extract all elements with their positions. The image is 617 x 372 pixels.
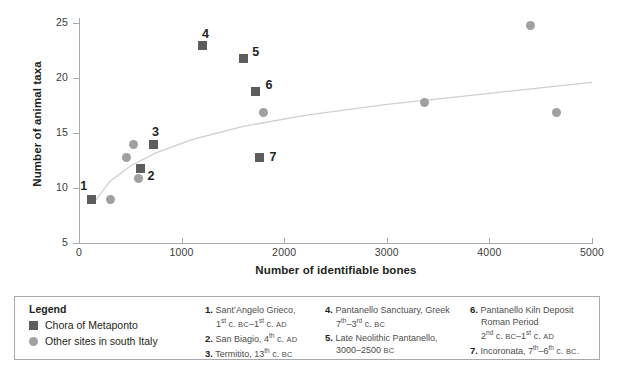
legend-note: 3. Termitito, 13th c. BC: [205, 347, 317, 361]
legend-note: 7. Incoronata, 7th–6th c. BC.: [470, 344, 610, 358]
legend-entry-chora: Chora of Metaponto: [29, 319, 204, 331]
data-point-label: 2: [148, 169, 155, 183]
data-point-label: 6: [265, 78, 272, 92]
x-tick-mark: [592, 238, 593, 244]
x-tick-label: 1000: [152, 246, 212, 258]
square-marker-icon: [29, 321, 38, 330]
x-tick-mark: [284, 238, 285, 244]
legend-note: 2. San Biagio, 4th c. AD: [205, 332, 317, 346]
legend-note: 5. Late Neolithic Pantanello,3000–2500 B…: [325, 332, 465, 357]
data-point-label: 5: [252, 45, 259, 59]
data-point-circle: [526, 21, 535, 30]
x-tick-label: 4000: [459, 246, 519, 258]
data-point-square: [136, 164, 145, 173]
data-point-label: 3: [152, 125, 159, 139]
legend-series-list: Legend Chora of Metaponto Other sites in…: [29, 303, 204, 347]
legend-note: 6. Pantanello Kiln DepositRoman Period2n…: [470, 304, 610, 343]
legend-entry-label: Other sites in south Italy: [45, 335, 158, 347]
data-point-square: [149, 140, 158, 149]
legend-notes-column-3: 6. Pantanello Kiln DepositRoman Period2n…: [470, 304, 610, 359]
x-tick-label: 2000: [254, 246, 314, 258]
data-point-square: [251, 87, 260, 96]
data-point-square: [255, 153, 264, 162]
data-point-circle: [106, 195, 115, 204]
data-point-square: [87, 195, 96, 204]
y-axis-title: Number of animal taxa: [31, 14, 43, 234]
data-point-circle: [259, 108, 268, 117]
y-tick-mark: [73, 78, 80, 79]
scatter-chart-figure: 510152025 010002000300040005000 Number o…: [0, 0, 617, 372]
legend-note: 4. Pantanello Sanctuary, Greek7th–3rd c.…: [325, 304, 465, 331]
data-point-circle: [552, 108, 561, 117]
x-tick-mark: [387, 238, 388, 244]
data-point-circle: [129, 140, 138, 149]
x-tick-label: 5000: [562, 246, 617, 258]
y-tick-mark: [73, 188, 80, 189]
y-tick-mark: [73, 23, 80, 24]
legend-notes-column-1: 1. Sant’Angelo Grieco,1st c. BC–1st c. A…: [205, 304, 317, 362]
y-tick-mark: [73, 133, 80, 134]
x-tick-label: 3000: [357, 246, 417, 258]
data-point-square: [198, 41, 207, 50]
legend-title: Legend: [29, 303, 204, 315]
x-tick-mark: [489, 238, 490, 244]
data-point-circle: [134, 174, 143, 183]
data-point-square: [239, 54, 248, 63]
data-point-label: 4: [202, 27, 209, 41]
x-axis-title: Number of identifiable bones: [79, 264, 593, 276]
y-axis-line: [79, 18, 80, 244]
x-tick-mark: [79, 238, 80, 244]
data-point-circle: [420, 98, 429, 107]
legend-note: 1. Sant’Angelo Grieco,1st c. BC–1st c. A…: [205, 304, 317, 331]
legend-entry-label: Chora of Metaponto: [45, 319, 138, 331]
data-point-circle: [122, 153, 131, 162]
circle-marker-icon: [29, 337, 38, 346]
legend-notes-column-2: 4. Pantanello Sanctuary, Greek7th–3rd c.…: [325, 304, 465, 358]
x-tick-mark: [182, 238, 183, 244]
plot-area: 510152025 010002000300040005000 Number o…: [0, 0, 617, 290]
legend-entry-other-sites: Other sites in south Italy: [29, 335, 204, 347]
legend-box: Legend Chora of Metaponto Other sites in…: [14, 296, 600, 360]
data-point-label: 7: [270, 150, 277, 164]
x-tick-label: 0: [49, 246, 109, 258]
x-axis-line: [79, 243, 593, 244]
data-point-label: 1: [80, 179, 87, 193]
